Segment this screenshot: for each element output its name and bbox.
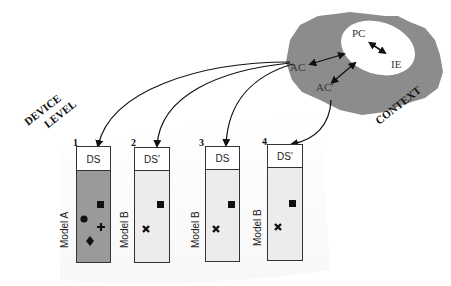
ds-label: DS’ (277, 151, 293, 162)
square-icon (97, 201, 104, 208)
device-number: 3 (199, 137, 204, 148)
node-pc: PC (352, 27, 365, 39)
square-icon (289, 200, 296, 207)
ds-label: DS (87, 154, 101, 165)
device-number: 2 (131, 137, 136, 148)
model-label: Model B (119, 211, 130, 248)
model-box (135, 171, 170, 263)
device-level-label: DEVICE LEVEL (22, 87, 78, 139)
ds-label: DS (216, 153, 230, 164)
node-ac-prime: AC' (316, 81, 333, 93)
model-box (206, 170, 240, 262)
diagram-canvas: PC IE AC AC' CONTEXT DEVICE LEVEL 1 DS M… (0, 0, 451, 286)
square-icon (228, 201, 235, 208)
circle-icon (80, 215, 87, 222)
model-box (268, 168, 303, 261)
square-icon (157, 201, 164, 208)
node-ac: AC (290, 61, 305, 73)
model-label: Model B (252, 209, 263, 246)
model-label: Model B (190, 211, 201, 248)
ds-label: DS’ (144, 154, 160, 165)
node-ie: IE (391, 58, 402, 70)
model-label: Model A (59, 212, 70, 248)
device-number: 4 (262, 136, 267, 147)
